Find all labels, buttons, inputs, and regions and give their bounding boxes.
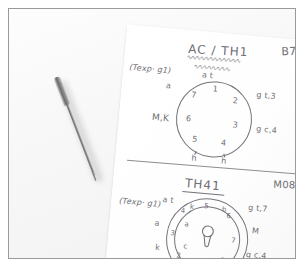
note-bottom-dial-number: 6 bbox=[226, 212, 231, 220]
note-top-label-at: a t bbox=[202, 70, 214, 80]
note-top-dial-number: 6 bbox=[186, 114, 192, 123]
note-top-dial-number: 4 bbox=[221, 138, 227, 147]
note-top-dial-number: 2 bbox=[232, 96, 238, 105]
note-bottom-dial-letter: c bbox=[183, 242, 188, 250]
note-bottom-left-label-at: a t bbox=[162, 195, 174, 205]
note-bottom-dial-number: 2 bbox=[176, 252, 181, 259]
note-bottom-dial-number: 8 bbox=[220, 257, 225, 259]
note-bottom-dial-letter: k bbox=[190, 203, 195, 211]
note-bottom-dial-number: 5 bbox=[204, 202, 209, 210]
note-top-right-label-lower: g c,4 bbox=[256, 124, 277, 135]
note-bottom-dial-number: 3 bbox=[170, 229, 175, 237]
note-top-right-label-upper: g t,3 bbox=[256, 90, 276, 101]
note-top-left-label-a: a bbox=[165, 81, 171, 90]
note-top-dial-number: 1 bbox=[212, 84, 218, 93]
note-top-corner-code: B7 bbox=[281, 45, 296, 58]
notes-divider bbox=[127, 160, 296, 176]
note-bottom-dial-number: 7 bbox=[231, 237, 236, 245]
note-top-bottom-mark: h bbox=[191, 154, 197, 163]
note-top-left-label-mk: M,K bbox=[152, 112, 170, 124]
note-bottom-dial-number: 4 bbox=[180, 207, 185, 215]
note-bottom-dial-letter: a bbox=[184, 220, 189, 228]
note-bottom-right-label-mid: M bbox=[252, 226, 260, 236]
note-bottom-left-label-k: k bbox=[155, 243, 161, 252]
note-bottom-dial-letter: b bbox=[222, 206, 227, 214]
note-bottom-right-label-lower: g c,4 bbox=[246, 250, 267, 259]
note-bottom-left-annotation: (Texp· g1) bbox=[119, 196, 162, 209]
note-top-left-annotation: (Texp· g1) bbox=[129, 63, 172, 76]
note-top-dial-number: 3 bbox=[232, 120, 238, 129]
screenshot-root: B7 AC / TH1 ∿∿∿∿∿∿∿∿∿∿∿∿ (Texp· g1) ∿∿∿∿… bbox=[0, 0, 306, 269]
note-bottom-right-label-upper: g t,7 bbox=[248, 203, 268, 214]
note-bottom-corner-code: M08 bbox=[273, 179, 295, 190]
paper-sheet: B7 AC / TH1 ∿∿∿∿∿∿∿∿∿∿∿∿ (Texp· g1) ∿∿∿∿… bbox=[106, 24, 296, 259]
note-top-dial-number: 7 bbox=[191, 90, 197, 99]
note-top-dial-top-wave: ∿∿∿∿∿∿∿∿ bbox=[193, 64, 233, 73]
note-bottom-left-label-a: a bbox=[154, 218, 160, 227]
note-top-bottom-mark: h bbox=[221, 156, 227, 165]
keyhole-icon bbox=[198, 224, 216, 251]
image-frame: B7 AC / TH1 ∿∿∿∿∿∿∿∿∿∿∿∿ (Texp· g1) ∿∿∿∿… bbox=[8, 8, 296, 259]
note-top-dial-number: 5 bbox=[192, 135, 198, 144]
